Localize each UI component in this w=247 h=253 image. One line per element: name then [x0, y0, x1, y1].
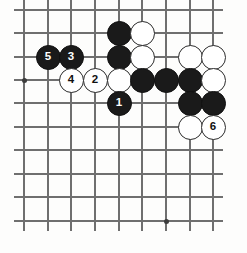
stone-black[interactable]: [130, 68, 155, 93]
stone-white-move-4[interactable]: 4: [59, 68, 84, 93]
stone-black[interactable]: [107, 21, 132, 46]
stone-move-number: 6: [210, 121, 216, 133]
stone-white[interactable]: [107, 68, 132, 93]
board-line-horizontal: [14, 9, 223, 11]
stone-black-move-5[interactable]: 5: [36, 45, 61, 70]
stone-white[interactable]: [130, 21, 155, 46]
stone-black[interactable]: [154, 68, 179, 93]
stone-move-number: 5: [45, 51, 51, 63]
stone-move-number: 4: [68, 74, 74, 86]
go-diagram-figure: 534216: [0, 0, 247, 253]
stone-white[interactable]: [178, 115, 203, 140]
board-line-horizontal: [14, 196, 223, 198]
stone-white[interactable]: [201, 68, 226, 93]
stone-white[interactable]: [178, 45, 203, 70]
star-point: [22, 78, 27, 83]
stone-black[interactable]: [107, 45, 132, 70]
stone-white-move-6[interactable]: 6: [201, 115, 226, 140]
stone-white-move-2[interactable]: 2: [83, 68, 108, 93]
stone-black-move-1[interactable]: 1: [107, 91, 132, 116]
board-line-horizontal: [14, 173, 223, 175]
stone-move-number: 3: [68, 51, 74, 63]
board-line-horizontal: [14, 149, 223, 151]
stone-black[interactable]: [178, 68, 203, 93]
go-board[interactable]: 534216: [0, 0, 247, 253]
stone-white[interactable]: [130, 45, 155, 70]
stone-white[interactable]: [201, 45, 226, 70]
stone-black[interactable]: [178, 91, 203, 116]
stone-move-number: 2: [92, 74, 98, 86]
stone-black-move-3[interactable]: 3: [59, 45, 84, 70]
stone-black[interactable]: [201, 91, 226, 116]
stone-move-number: 1: [116, 97, 122, 109]
board-line-horizontal: [14, 220, 223, 222]
star-point: [164, 219, 169, 224]
